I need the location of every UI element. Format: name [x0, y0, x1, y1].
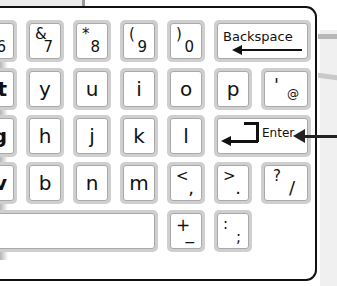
key-p[interactable]: p	[214, 68, 252, 110]
key-v[interactable]: v	[0, 162, 17, 204]
key-u[interactable]: u	[73, 68, 111, 110]
pointer-arrow-line	[300, 135, 337, 138]
key-b[interactable]: b	[26, 162, 64, 204]
key-colon[interactable]: : ;	[214, 210, 252, 252]
key-n[interactable]: n	[73, 162, 111, 204]
key-i[interactable]: i	[120, 68, 158, 110]
key-y[interactable]: y	[26, 68, 64, 110]
key-9[interactable]: ( 9	[120, 20, 158, 62]
pointer-arrow-icon	[293, 129, 305, 143]
background-right	[320, 30, 337, 286]
key-h[interactable]: h	[26, 115, 64, 157]
key-0[interactable]: ) 0	[167, 20, 205, 62]
key-space[interactable]	[0, 210, 158, 252]
key-plus[interactable]: + _	[167, 210, 205, 252]
background-band	[318, 34, 337, 39]
key-j[interactable]: j	[73, 115, 111, 157]
key-g[interactable]: g	[0, 115, 17, 157]
key-t[interactable]: t	[0, 68, 17, 110]
key-l[interactable]: l	[167, 115, 205, 157]
key-8[interactable]: * 8	[73, 20, 111, 62]
key-slash[interactable]: ? /	[261, 162, 311, 204]
key-period[interactable]: > .	[214, 162, 252, 204]
key-k[interactable]: k	[120, 115, 158, 157]
key-o[interactable]: o	[167, 68, 205, 110]
key-apostrophe[interactable]: ' @	[261, 68, 311, 110]
key-backspace[interactable]: Backspace	[214, 20, 311, 62]
key-comma[interactable]: < ,	[167, 162, 205, 204]
key-m[interactable]: m	[120, 162, 158, 204]
key-7[interactable]: & 7	[26, 20, 64, 62]
key-6[interactable]: 6	[0, 20, 17, 62]
